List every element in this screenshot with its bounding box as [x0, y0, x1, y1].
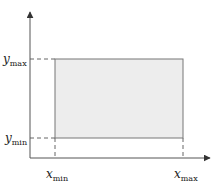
shaded-rectangle	[55, 59, 183, 138]
label-y-min-sub: min	[12, 138, 27, 147]
label-y-max: ymax	[3, 53, 27, 68]
label-y-max-base: y	[3, 52, 10, 66]
label-x-max: xmax	[174, 168, 198, 183]
label-x-min-sub: min	[53, 174, 68, 183]
label-y-min-base: y	[5, 131, 12, 145]
bounding-box-diagram	[0, 0, 220, 187]
label-y-min: ymin	[5, 132, 27, 147]
label-x-min: xmin	[46, 168, 68, 183]
label-x-max-base: x	[174, 167, 181, 181]
label-x-max-sub: max	[181, 174, 198, 183]
label-y-max-sub: max	[10, 59, 27, 68]
label-x-min-base: x	[46, 167, 53, 181]
